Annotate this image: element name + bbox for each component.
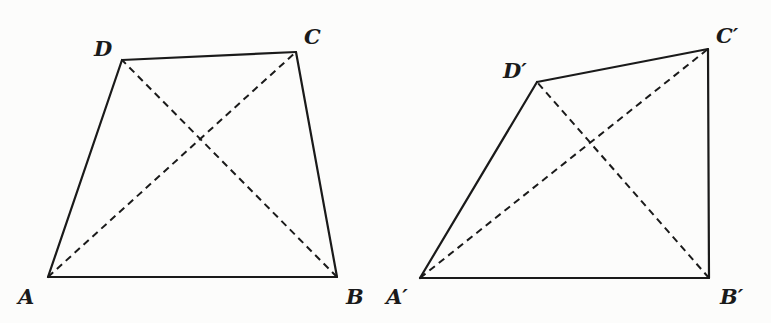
vertex-label-b-prime: B′ bbox=[720, 286, 743, 307]
vertex-label-c: C bbox=[304, 26, 321, 47]
quadrilaterals-diagram bbox=[0, 0, 771, 323]
quadrilateral-abcd-prime bbox=[420, 49, 709, 278]
diagram-canvas: A B C D A′ B′ C′ D′ bbox=[0, 0, 771, 323]
diagonal-ac-prime bbox=[420, 49, 708, 278]
diagonal-ac bbox=[48, 52, 296, 277]
edge-bc bbox=[296, 52, 337, 277]
edge-cd-prime bbox=[537, 49, 708, 82]
diagonal-bd bbox=[122, 60, 337, 277]
edge-cd bbox=[122, 52, 296, 60]
vertex-label-b: B bbox=[346, 286, 364, 307]
quadrilateral-abcd bbox=[48, 52, 337, 277]
diagonal-bd-prime bbox=[537, 82, 709, 278]
vertex-label-d: D bbox=[94, 38, 112, 59]
vertex-label-c-prime: C′ bbox=[716, 25, 738, 46]
vertex-label-a: A bbox=[18, 286, 34, 307]
vertex-label-a-prime: A′ bbox=[386, 286, 408, 307]
edge-bc-prime bbox=[708, 49, 709, 278]
vertex-label-d-prime: D′ bbox=[503, 60, 527, 81]
edge-da-prime bbox=[420, 82, 537, 278]
